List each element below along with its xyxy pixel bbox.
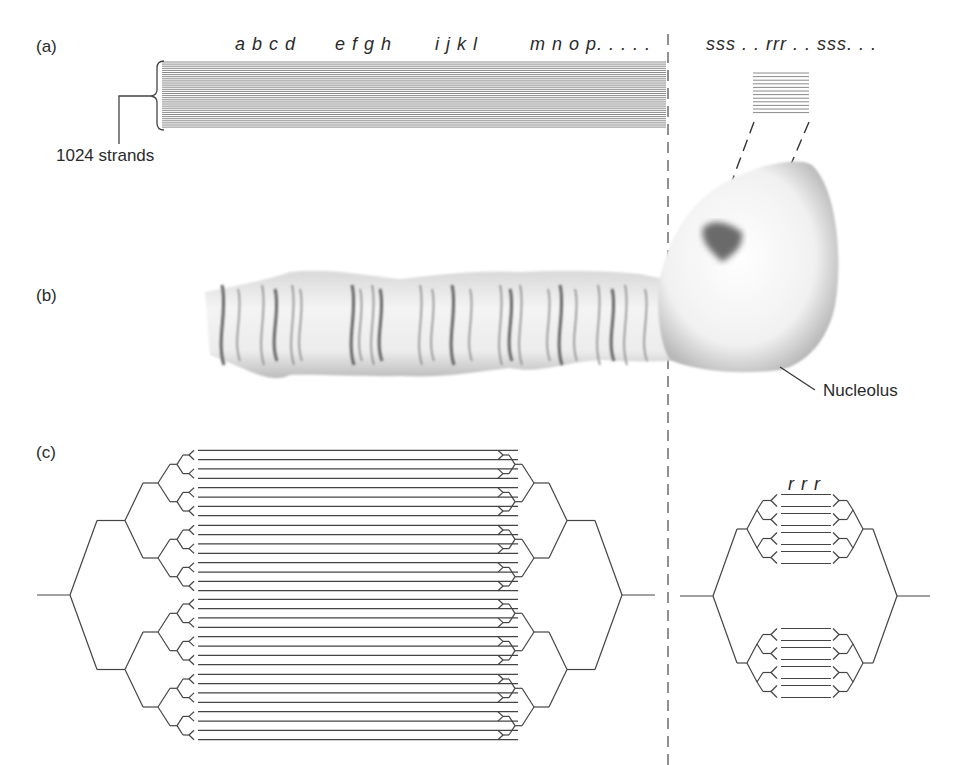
nucleolus-label: Nucleolus — [823, 381, 898, 401]
strand-count-label: 1024 strands — [56, 146, 154, 166]
gene-label-abcd: a b c d — [235, 34, 296, 55]
rrr-label: r r r — [788, 474, 821, 495]
nucleolus-pointer-line — [780, 367, 815, 390]
replication-tree-rdna — [680, 495, 930, 698]
rdna-label: sss . . rrr . . sss. . . — [706, 34, 877, 55]
chromosome-illustration — [205, 271, 675, 379]
panel-label-b: (b) — [36, 286, 57, 306]
diagram-canvas — [0, 0, 962, 765]
panel-label-c: (c) — [36, 443, 56, 463]
panel-label-a: (a) — [36, 37, 57, 57]
strand-count-pointer — [119, 96, 151, 144]
replication-tree-main — [37, 450, 655, 739]
gene-label-efgh: e f g h — [335, 34, 392, 55]
rdna-strand-bundle — [753, 73, 809, 113]
nucleolus-illustration — [658, 162, 838, 373]
gene-label-mnop: m n o p. . . . . — [530, 34, 651, 55]
gene-label-ijkl: i j k l — [435, 34, 478, 55]
strand-bundle — [162, 62, 666, 127]
